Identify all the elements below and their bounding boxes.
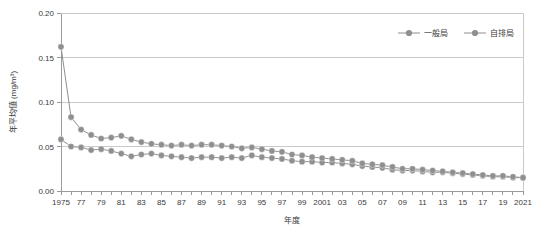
data-point — [259, 154, 265, 160]
x-tick-label: 2001 — [313, 198, 331, 207]
data-point — [219, 143, 225, 149]
y-tick-label: 0.05 — [38, 143, 54, 152]
data-point — [68, 143, 74, 149]
data-point — [209, 154, 215, 160]
x-tick-label: 05 — [358, 198, 367, 207]
x-tick-label: 85 — [157, 198, 166, 207]
data-point — [158, 152, 164, 158]
data-point — [419, 167, 425, 173]
x-tick-label: 99 — [298, 198, 307, 207]
x-tick-label: 09 — [398, 198, 407, 207]
x-tick-label: 03 — [338, 198, 347, 207]
data-point — [138, 139, 144, 145]
data-point — [178, 154, 184, 160]
data-point — [239, 155, 245, 161]
x-tick-label: 93 — [237, 198, 246, 207]
data-point — [108, 148, 114, 154]
data-point — [269, 155, 275, 161]
data-point — [138, 151, 144, 157]
x-tick-label: 77 — [77, 198, 86, 207]
data-point — [78, 144, 84, 150]
x-tick-label: 17 — [478, 198, 487, 207]
y-tick-label: 0.20 — [38, 9, 54, 18]
x-tick-label: 07 — [378, 198, 387, 207]
x-tick-label: 83 — [137, 198, 146, 207]
data-point — [299, 152, 305, 158]
data-point — [249, 152, 255, 158]
x-tick-label: 87 — [177, 198, 186, 207]
x-tick-label: 19 — [498, 198, 507, 207]
data-point — [209, 142, 215, 148]
chart-container: 0.000.050.100.150.20 1975777981838587899… — [0, 0, 544, 238]
legend-label: 一般局 — [424, 28, 448, 38]
data-point — [490, 173, 496, 179]
y-tick-label: 0.00 — [38, 187, 54, 196]
x-tick-label: 15 — [458, 198, 467, 207]
x-tick-label: 79 — [97, 198, 106, 207]
x-tick-label: 11 — [418, 198, 427, 207]
legend-label: 自排局 — [490, 28, 514, 38]
data-point — [520, 175, 526, 181]
data-point — [359, 160, 365, 166]
y-axis-title: 年平均値 (mg/m³) — [8, 71, 18, 134]
data-point — [128, 153, 134, 159]
data-point — [460, 170, 466, 176]
data-point — [329, 156, 335, 162]
data-point — [319, 155, 325, 161]
x-tick-label: 81 — [117, 198, 126, 207]
x-tick-label: 2021 — [514, 198, 532, 207]
data-point — [188, 143, 194, 149]
data-point — [229, 154, 235, 160]
data-point — [168, 153, 174, 159]
data-point — [229, 143, 235, 149]
legend-marker — [472, 30, 478, 36]
data-point — [349, 158, 355, 164]
data-point — [339, 157, 345, 163]
legend-marker — [406, 30, 412, 36]
data-point — [68, 114, 74, 120]
data-point — [188, 155, 194, 161]
data-point — [379, 162, 385, 168]
data-point — [249, 144, 255, 150]
data-point — [118, 151, 124, 157]
data-point — [500, 173, 506, 179]
x-axis-title: 年度 — [284, 215, 300, 225]
data-point — [88, 147, 94, 153]
data-point — [88, 132, 94, 138]
data-point — [279, 156, 285, 162]
data-point — [98, 146, 104, 152]
x-tick-label: 13 — [438, 198, 447, 207]
data-point — [58, 136, 64, 142]
data-point — [369, 161, 375, 167]
data-point — [108, 135, 114, 141]
data-point — [128, 136, 134, 142]
data-point — [199, 154, 205, 160]
x-tick-label: 1975 — [52, 198, 70, 207]
data-point — [389, 164, 395, 170]
data-point — [450, 169, 456, 175]
x-tick-label: 89 — [197, 198, 206, 207]
x-tick-label: 97 — [278, 198, 287, 207]
data-point — [409, 166, 415, 172]
data-point — [289, 158, 295, 164]
data-point — [98, 135, 104, 141]
x-tick-label: 91 — [217, 198, 226, 207]
data-point — [430, 167, 436, 173]
data-point — [470, 171, 476, 177]
data-point — [78, 126, 84, 132]
data-point — [289, 151, 295, 157]
data-point — [158, 142, 164, 148]
data-point — [399, 166, 405, 172]
data-point — [199, 142, 205, 148]
data-point — [510, 174, 516, 180]
data-point — [58, 44, 64, 50]
data-point — [219, 155, 225, 161]
x-tick-label: 95 — [257, 198, 266, 207]
data-point — [480, 172, 486, 178]
data-point — [118, 133, 124, 139]
y-tick-label: 0.15 — [38, 54, 54, 63]
data-point — [279, 149, 285, 155]
data-point — [269, 148, 275, 154]
data-point — [259, 146, 265, 152]
data-point — [309, 154, 315, 160]
